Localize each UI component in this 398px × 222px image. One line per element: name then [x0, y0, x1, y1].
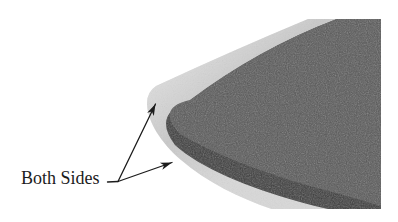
- both-sides-label: Both Sides: [21, 168, 100, 188]
- diagram-canvas: Both Sides: [0, 0, 398, 222]
- panel-illustration: [147, 14, 383, 218]
- figure-both-sides: Both Sides: [0, 0, 398, 222]
- leader-line: [108, 182, 119, 183]
